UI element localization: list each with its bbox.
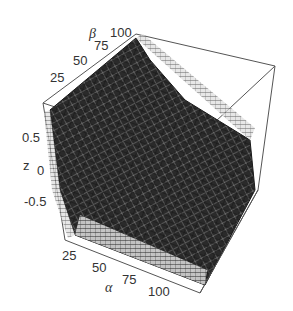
alpha-tick-50: 50: [92, 260, 106, 275]
surface-plot: 25 50 75 100 β 0.5 0 -0.5 z 25 50 75 100…: [0, 0, 293, 311]
z-tick-0: 0: [37, 163, 44, 178]
beta-tick-100: 100: [110, 25, 132, 40]
beta-axis-label: β: [88, 26, 96, 41]
alpha-tick-25: 25: [62, 248, 76, 263]
z-tick-0.5: 0.5: [22, 130, 40, 145]
beta-tick-75: 75: [94, 38, 108, 53]
z-tick-neg0.5: -0.5: [24, 194, 46, 209]
beta-tick-50: 50: [73, 53, 87, 68]
z-axis-label: z: [23, 158, 30, 173]
z-axis: 0.5 0 -0.5 z: [22, 130, 46, 209]
alpha-axis-label: α: [105, 280, 113, 295]
alpha-tick-75: 75: [122, 272, 136, 287]
alpha-tick-100: 100: [148, 284, 170, 299]
beta-tick-25: 25: [50, 70, 64, 85]
